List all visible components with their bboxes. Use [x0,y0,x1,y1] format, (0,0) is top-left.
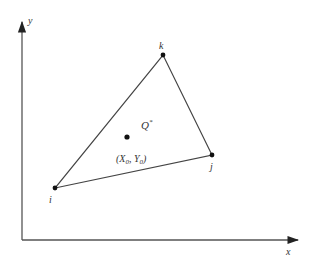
vertex-i-node [53,186,58,191]
vertex-k-label: k [159,40,164,51]
vertex-j-label: j [208,161,213,172]
interior-point-dot [124,134,129,139]
interior-point-coords: (X0, Y0) [116,153,147,166]
q-label: Q [141,119,149,131]
y-axis-label: y [27,15,33,26]
vertex-k-node [161,53,166,58]
triangle-element-diagram: y x i j k Q* (X0, Y0) [0,0,313,266]
interior-point-name: Q* [141,118,153,131]
q-superscript: * [149,118,153,126]
x-axis-label: x [285,246,291,257]
triangle-element [55,55,212,188]
vertex-i-label: i [49,194,52,205]
coord-close: ) [142,153,147,165]
vertex-j-node [210,153,215,158]
